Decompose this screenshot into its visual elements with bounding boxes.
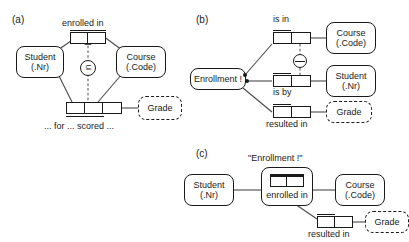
predicate-box-is-in-b — [273, 32, 311, 44]
entity-ref: (.Nr) — [200, 190, 218, 200]
entity-name: Grade — [374, 217, 399, 227]
panel-label-b: (b) — [196, 14, 208, 25]
entity-grade-a: Grade — [138, 96, 182, 120]
predicate-box-is-by-b — [273, 75, 311, 87]
objectification-label-c: "Enrollment !" — [248, 153, 302, 163]
entity-name: Enrollment ! — [194, 74, 242, 84]
uniqueness-bar-enrolled-in-a — [70, 30, 106, 31]
predicate-box-for-scored-a — [66, 102, 122, 114]
entity-name: Course — [345, 180, 374, 190]
role-cell — [318, 217, 335, 227]
predicate-label-enrolled-in-a: enrolled in — [62, 18, 104, 28]
predicate-box-resulted-in-c — [317, 216, 353, 228]
entity-name: Course — [336, 28, 365, 38]
role-cell — [274, 76, 292, 86]
predicate-box-resulted-in-b — [273, 106, 311, 118]
entity-grade-b: Grade — [326, 101, 372, 123]
predicate-box-enrolled-in-a — [70, 32, 106, 44]
role-cell — [292, 76, 310, 86]
predicate-label-is-by-b: is by — [273, 87, 292, 97]
entity-student-c: Student (.Nr) — [184, 174, 234, 206]
external-uniqueness-constraint-icon-b — [293, 54, 307, 68]
role-cell — [88, 33, 105, 43]
entity-course-c: Course (.Code) — [335, 174, 385, 206]
entity-name: Grade — [147, 103, 172, 113]
uniqueness-bar-is-by-b — [273, 73, 291, 74]
entity-name: Course — [126, 52, 155, 62]
role-cell — [271, 177, 287, 186]
entity-name: Student — [24, 52, 55, 62]
role-cell — [103, 103, 121, 113]
objectified-fact-type-c: enrolled in — [261, 167, 313, 206]
role-cell — [292, 33, 310, 43]
entity-course-b: Course (.Code) — [326, 22, 376, 54]
entity-ref: (.Code) — [336, 38, 366, 48]
uniqueness-bar-for-scored-a — [66, 116, 104, 117]
mandatory-role-dot-is-in — [243, 73, 247, 77]
entity-ref: (.Code) — [345, 190, 375, 200]
panel-label-c: (c) — [196, 148, 208, 159]
entity-grade-c: Grade — [365, 211, 409, 233]
predicate-box-enrolled-in-c — [270, 176, 304, 187]
role-cell — [274, 33, 292, 43]
entity-name: Grade — [336, 107, 361, 117]
panel-label-a: (a) — [12, 14, 24, 25]
predicate-label-resulted-in-b: resulted in — [266, 119, 308, 129]
entity-student-a: Student (.Nr) — [16, 46, 64, 78]
constraint-bar — [295, 61, 305, 62]
entity-ref: (.Nr) — [31, 62, 49, 72]
subset-constraint-icon-a: ⊆ — [80, 60, 96, 76]
entity-name: Student — [335, 71, 366, 81]
predicate-label-resulted-in-c: resulted in — [308, 229, 350, 239]
mandatory-role-dot-is-by — [245, 79, 249, 83]
entity-ref: (.Code) — [126, 62, 156, 72]
role-cell — [287, 177, 303, 186]
role-cell — [292, 107, 310, 117]
entity-name: Student — [193, 180, 224, 190]
predicate-label-for-scored-a: ... for ... scored ... — [44, 121, 114, 131]
role-cell — [85, 103, 103, 113]
role-cell — [335, 217, 352, 227]
role-cell — [71, 33, 88, 43]
subset-symbol: ⊆ — [85, 64, 92, 72]
entity-course-a: Course (.Code) — [116, 46, 166, 78]
uniqueness-bar-is-in-b — [273, 30, 291, 31]
uniqueness-bar-resulted-in-b — [273, 104, 291, 105]
entity-enrollment-b: Enrollment ! — [190, 68, 246, 90]
uniqueness-bar-enrolled-in-c — [270, 174, 304, 175]
entity-student-b: Student (.Nr) — [326, 65, 376, 97]
role-cell — [274, 107, 292, 117]
uniqueness-bar-resulted-in-c — [317, 214, 335, 215]
predicate-label-is-in-b: is in — [273, 14, 289, 24]
entity-ref: (.Nr) — [342, 81, 360, 91]
role-cell — [67, 103, 85, 113]
